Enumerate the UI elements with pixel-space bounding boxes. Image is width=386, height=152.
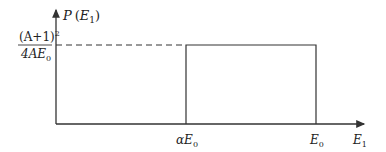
x-axis-label: E1: [352, 133, 367, 149]
distribution-box: [186, 45, 316, 124]
x-tick-alpha-e0: αE0: [176, 133, 198, 149]
level-label-denominator: 4AE0: [20, 47, 51, 63]
level-label-numerator: (A+1)2: [19, 29, 60, 44]
x-tick-e0: E0: [309, 133, 324, 149]
energy-distribution-diagram: P(E1) (A+1)2 4AE0 αE0 E0 E1: [0, 0, 386, 152]
y-axis-label: P(E1): [62, 8, 100, 25]
